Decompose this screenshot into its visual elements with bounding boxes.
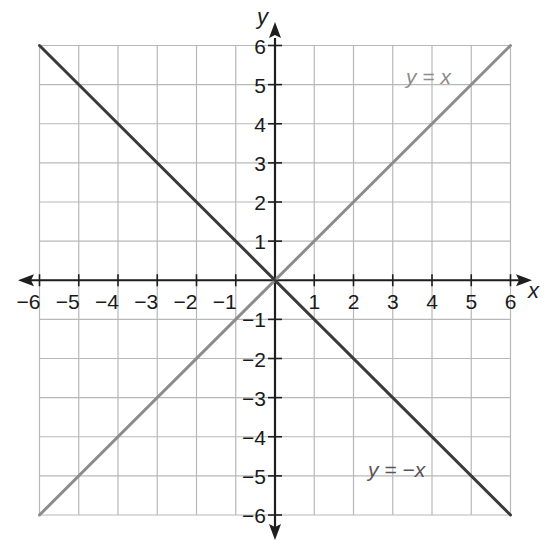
- y-tick-label: −2: [242, 348, 266, 371]
- line-label-y-equals-neg-x: y = −x: [366, 458, 427, 481]
- x-axis-label: x: [527, 278, 540, 303]
- x-tick-label: 5: [465, 290, 477, 313]
- y-tick-label: 3: [254, 152, 266, 175]
- x-tick-label: −1: [213, 290, 237, 313]
- line-label-y-equals-x: y = x: [404, 65, 452, 88]
- x-tick-label: −5: [56, 290, 80, 313]
- y-tick-label: 2: [254, 191, 266, 214]
- x-tick-label: −4: [95, 290, 119, 313]
- y-tick-label: 4: [254, 113, 266, 136]
- y-axis-up-arrow-icon: [269, 22, 281, 38]
- y-tick-label: 5: [254, 74, 266, 97]
- y-tick-label: −5: [242, 465, 266, 488]
- y-tick-label: 1: [254, 230, 266, 253]
- y-axis-label: y: [255, 4, 270, 29]
- x-tick-label: 1: [308, 290, 320, 313]
- x-tick-label: 4: [426, 290, 438, 313]
- y-tick-label: −4: [242, 426, 266, 449]
- x-tick-label: 3: [387, 290, 399, 313]
- y-tick-label: −6: [242, 504, 266, 527]
- coordinate-plane-chart: −6−5−4−3−2−1123456−6−5−4−3−2−1123456 y x…: [0, 0, 550, 542]
- x-tick-label: 6: [505, 290, 517, 313]
- x-tick-label: −3: [134, 290, 158, 313]
- x-tick-label: −2: [174, 290, 198, 313]
- y-tick-label: −3: [242, 387, 266, 410]
- y-tick-label: −1: [242, 308, 266, 331]
- x-tick-label: 2: [348, 290, 360, 313]
- x-tick-label: −6: [17, 290, 41, 313]
- y-tick-label: 6: [254, 35, 266, 58]
